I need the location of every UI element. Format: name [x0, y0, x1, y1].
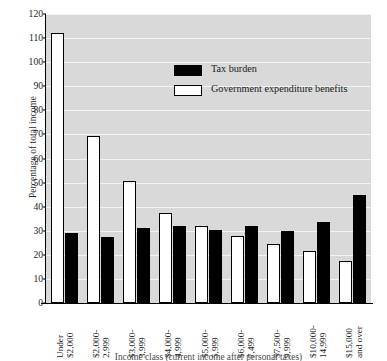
legend-item: Tax burden	[174, 62, 371, 80]
bar-tax-burden	[353, 195, 366, 303]
x-axis-tick-label-line: $4,000-	[163, 306, 173, 358]
bar-series-container	[46, 14, 371, 303]
x-axis-line	[41, 303, 373, 304]
legend-swatch-black	[174, 65, 202, 76]
bar-tax-burden	[101, 237, 114, 303]
bar-expenditure-benefits	[123, 181, 136, 303]
plot-area: Tax burdenGovernment expenditure benefit…	[46, 14, 371, 303]
bar-group	[118, 14, 154, 303]
y-axis-tick-label: 40	[15, 202, 43, 212]
legend-label: Government expenditure benefits	[211, 83, 347, 94]
x-axis-tick-label-line: $3,000-	[127, 306, 137, 358]
bar-tax-burden	[65, 233, 78, 303]
x-axis-tick-label-line: $6,000-	[236, 306, 246, 358]
bar-group	[263, 14, 299, 303]
x-axis-tick-label-line: 14,999	[318, 306, 328, 358]
x-axis-title: Income class (current income after perso…	[46, 352, 371, 361]
bar-tax-burden	[317, 222, 330, 303]
bar-tax-burden	[137, 228, 150, 303]
y-axis-tick-label: 0	[15, 298, 43, 308]
bar-group	[227, 14, 263, 303]
bar-expenditure-benefits	[267, 244, 280, 303]
y-axis-line	[45, 14, 46, 304]
bar-expenditure-benefits	[51, 33, 64, 303]
x-axis-tick-label-line: 4,999	[173, 306, 183, 358]
bar-tax-burden	[281, 231, 294, 303]
bar-tax-burden	[245, 226, 258, 303]
bar-expenditure-benefits	[303, 251, 316, 303]
chart-legend: Tax burdenGovernment expenditure benefit…	[174, 62, 371, 102]
x-axis-tick-label-line: 7,499	[246, 306, 256, 358]
x-axis-tick-label-line: 5,999	[210, 306, 220, 358]
bar-group	[46, 14, 82, 303]
x-axis-tick-label-line: $10,000-	[308, 306, 318, 358]
y-axis-tick-label: 30	[15, 226, 43, 236]
bar-expenditure-benefits	[159, 213, 172, 303]
y-axis: 0102030405060708090100110120	[14, 8, 46, 309]
y-axis-tick-label: 60	[15, 154, 43, 164]
bar-group	[82, 14, 118, 303]
bar-group	[335, 14, 371, 303]
bar-expenditure-benefits	[339, 261, 352, 303]
legend-item: Government expenditure benefits	[174, 82, 371, 100]
x-axis-tick-label-line: $2,000-	[91, 306, 101, 358]
x-axis-tick-label-line: $2,000	[65, 306, 75, 358]
bar-group	[154, 14, 190, 303]
y-axis-tick-label: 10	[15, 274, 43, 284]
y-axis-tick-label: 50	[15, 178, 43, 188]
x-axis-tick-label: $15,000and over	[344, 306, 387, 320]
y-axis-tick-label: 110	[15, 33, 43, 43]
y-axis-tick-label: 100	[15, 57, 43, 67]
x-axis-tick-label-line: and over	[354, 306, 364, 358]
y-axis-tick-label: 20	[15, 250, 43, 260]
bar-chart-figure: Percentage of total income 0102030405060…	[0, 0, 387, 361]
bar-expenditure-benefits	[87, 136, 100, 303]
bar-group	[190, 14, 226, 303]
bar-tax-burden	[173, 226, 186, 303]
bar-tax-burden	[209, 230, 222, 303]
x-axis-tick-label-line: 3,999	[137, 306, 147, 358]
y-axis-tick-label: 70	[15, 129, 43, 139]
y-axis-tick-label: 120	[15, 9, 43, 19]
x-axis-tick-label-line: $15,000	[344, 306, 354, 358]
x-axis-tick-label-line: $7,500-	[272, 306, 282, 358]
x-axis-tick-label-line: Under	[55, 306, 65, 358]
bar-expenditure-benefits	[195, 226, 208, 303]
bar-group	[299, 14, 335, 303]
x-axis-tick-label-line: 2,999	[101, 306, 111, 358]
bar-expenditure-benefits	[231, 236, 244, 303]
legend-label: Tax burden	[211, 63, 257, 74]
y-axis-tick-label: 80	[15, 105, 43, 115]
legend-swatch-white	[174, 85, 202, 96]
x-axis-tick-label-line: 9,999	[282, 306, 292, 358]
x-axis-tick-label-line: $5,000-	[200, 306, 210, 358]
y-axis-tick-label: 90	[15, 81, 43, 91]
